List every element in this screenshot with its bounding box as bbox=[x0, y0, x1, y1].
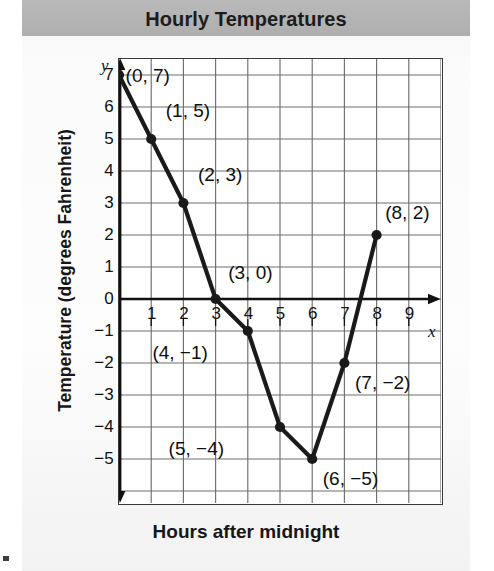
data-point bbox=[178, 198, 188, 208]
chart-title: Hourly Temperatures bbox=[22, 2, 470, 36]
x-tick-label: 8 bbox=[366, 304, 388, 324]
y-tick-label: 3 bbox=[88, 193, 114, 213]
point-label: (3, 0) bbox=[228, 262, 272, 284]
x-tick-label: 2 bbox=[173, 304, 195, 324]
y-tick-label: −2 bbox=[88, 353, 114, 373]
data-point bbox=[307, 454, 317, 464]
data-point bbox=[211, 294, 221, 304]
point-label: (4, −1) bbox=[152, 342, 207, 364]
chart-canvas bbox=[119, 59, 441, 503]
x-tick-label: 9 bbox=[398, 304, 420, 324]
point-label: (0, 7) bbox=[126, 65, 170, 87]
x-tick-label: 3 bbox=[205, 304, 227, 324]
data-point bbox=[119, 70, 124, 80]
point-label: (1, 5) bbox=[166, 100, 210, 122]
x-tick-label: 4 bbox=[237, 304, 259, 324]
y-tick-label: 6 bbox=[88, 97, 114, 117]
point-label: (7, −2) bbox=[355, 372, 410, 394]
point-label: (8, 2) bbox=[385, 202, 429, 224]
x-axis-arrow bbox=[428, 294, 441, 304]
data-point bbox=[243, 326, 253, 336]
grid-lines bbox=[119, 59, 441, 503]
y-tick-label: 2 bbox=[88, 225, 114, 245]
plot-area bbox=[118, 58, 443, 505]
y-axis-arrow-down bbox=[119, 491, 125, 503]
y-axis-letter: y bbox=[101, 56, 109, 76]
data-point bbox=[372, 230, 382, 240]
point-label: (6, −5) bbox=[323, 468, 378, 490]
y-tick-label: −3 bbox=[88, 385, 114, 405]
y-tick-label: −4 bbox=[88, 417, 114, 437]
y-tick-label: 4 bbox=[88, 161, 114, 181]
x-tick-label: 5 bbox=[270, 304, 292, 324]
x-axis-title: Hours after midnight bbox=[22, 521, 470, 543]
x-tick-label: 1 bbox=[141, 304, 163, 324]
x-axis-letter: x bbox=[428, 322, 436, 342]
y-tick-label: 5 bbox=[88, 129, 114, 149]
y-axis-arrow-up bbox=[119, 59, 125, 70]
scan-artifact bbox=[3, 556, 9, 561]
data-point bbox=[275, 422, 285, 432]
point-label: (2, 3) bbox=[198, 164, 242, 186]
y-axis-title: Temperature (degrees Fahrenheit) bbox=[55, 71, 76, 471]
y-tick-label: −5 bbox=[88, 449, 114, 469]
y-tick-label: 0 bbox=[88, 289, 114, 309]
y-tick-label: −1 bbox=[88, 321, 114, 341]
y-tick-label: 1 bbox=[88, 257, 114, 277]
point-label: (5, −4) bbox=[169, 438, 224, 460]
x-tick-label: 6 bbox=[302, 304, 324, 324]
data-point bbox=[146, 134, 156, 144]
data-point bbox=[339, 358, 349, 368]
x-tick-label: 7 bbox=[334, 304, 356, 324]
